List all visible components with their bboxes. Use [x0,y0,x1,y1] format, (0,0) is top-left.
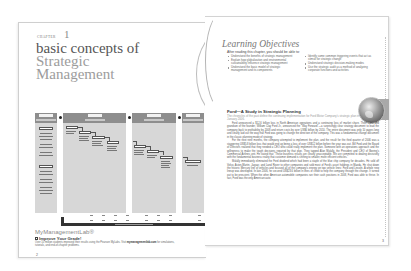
right-page: Learning Objectives After reading this c… [205,16,389,246]
margin-dotted-line [385,37,386,237]
objective-item: Use the strategic audit as a method of a… [304,66,374,73]
node-internal [39,165,53,168]
objective-item: Understand the basic model of strategic … [227,66,297,73]
column-heading [63,113,126,123]
mml-link[interactable]: mymanagementlab.com [127,241,157,244]
column-strategy-implementation [132,113,176,213]
node-programs [134,145,146,148]
learning-objectives-list-1: Understand the benefits of strategic man… [227,55,297,73]
node-objectives [79,131,91,134]
node-performance [185,160,201,163]
column-environmental-scanning [35,113,57,213]
column-heading [182,113,204,123]
node-mission [66,126,78,129]
column-evaluation-control [182,113,204,213]
case-body: Ford announced a $12.6 billion loss in N… [227,122,379,181]
learning-objectives-list-2: Identify some common triggering events t… [304,55,374,73]
connector-dot [59,116,62,119]
paragraph: Mulally immediately eliminated the Ford … [227,160,379,180]
page-number-right: 3 [382,239,384,243]
feedback-label [115,224,153,225]
mymanagementlab-logo: MyManagementLab® [35,229,94,235]
checkbox-icon [35,237,38,240]
column-heading [35,113,57,123]
page-number-left: 2 [36,253,38,257]
node-procedures [160,156,173,159]
node-budgets [147,150,159,153]
column-heading [132,113,176,123]
paragraph: Ford announced a $12.6 billion loss in N… [227,122,379,139]
column-strategy-formulation [63,113,126,213]
connector-dot [128,116,131,119]
chapter-number: 1 [64,28,70,40]
left-page: CHAPTER 1 basic concepts of Strategic Ma… [18,22,206,258]
node-strategies [92,136,105,139]
title-line-3: Management [36,68,139,81]
chapter-label: CHAPTER [37,35,56,39]
node-external [39,127,53,130]
node-policies [107,141,119,144]
paragraph: For the next nine months, the company at… [227,139,379,159]
learning-objectives-title: Learning Objectives [222,39,299,49]
globe-icon [358,97,385,124]
connector-dot [178,116,181,119]
mml-description: Over 10 million students improved their … [35,241,185,247]
case-intro: The chronicles of the past define the co… [227,115,359,122]
chapter-title: basic concepts of Strategic Management [36,42,139,81]
strategic-management-model-diagram [35,113,205,225]
